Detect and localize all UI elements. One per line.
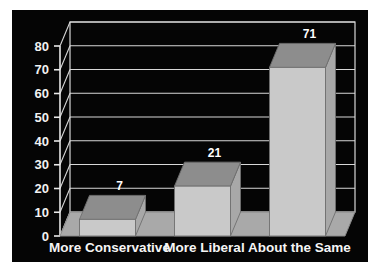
bar-side-face <box>326 43 336 236</box>
category-label: More Conservative <box>49 240 170 255</box>
bar-front-face <box>270 67 326 236</box>
bar-top-face <box>175 162 241 186</box>
bar-front-face <box>175 186 231 236</box>
bar-top-face <box>270 43 336 67</box>
bar-chart-3d: 01020304050607080 72171 More Conservativ… <box>0 0 384 277</box>
chart-container: 01020304050607080 72171 More Conservativ… <box>0 0 384 277</box>
y-axis-tick-label: 20 <box>35 181 49 196</box>
y-axis-tick-labels: 01020304050607080 <box>35 39 49 244</box>
y-axis-tick-label: 40 <box>35 134 49 149</box>
y-axis-tick-label: 80 <box>35 39 49 54</box>
bar-value-label: 21 <box>208 146 222 160</box>
y-axis-tick-label: 50 <box>35 110 49 125</box>
category-label: About the Same <box>248 240 351 255</box>
category-axis-labels: More ConservativeMore LiberalAbout the S… <box>49 240 351 255</box>
bar <box>80 195 146 236</box>
bar <box>175 162 241 236</box>
bar-value-label: 7 <box>116 179 123 193</box>
y-axis-tick-label: 70 <box>35 62 49 77</box>
bar <box>270 43 336 236</box>
y-axis-tick-label: 30 <box>35 157 49 172</box>
bar-top-face <box>80 195 146 219</box>
bar-value-label: 71 <box>303 27 317 41</box>
y-axis-tick-label: 60 <box>35 86 49 101</box>
y-axis-tick-label: 0 <box>42 229 49 244</box>
y-axis-tick-label: 10 <box>35 205 49 220</box>
category-label: More Liberal <box>164 240 244 255</box>
bar-front-face <box>80 219 136 236</box>
